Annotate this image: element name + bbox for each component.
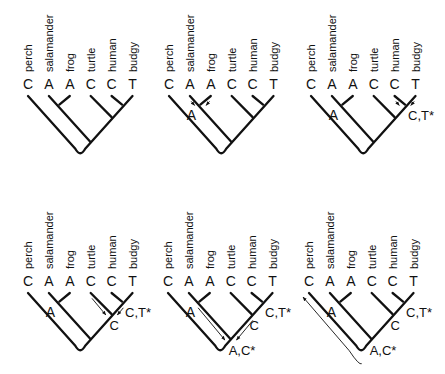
taxon-label-human: human bbox=[387, 235, 399, 269]
tip-state-salamander: A bbox=[327, 76, 337, 92]
tree-panel-4: perchCsalamanderAfrogAturtleChumanCbudgy… bbox=[22, 211, 151, 350]
branch-salamander bbox=[49, 293, 91, 339]
branch-frog bbox=[59, 96, 69, 105]
tip-state-human: C bbox=[247, 273, 257, 289]
tree-panel-3: perchCsalamanderAfrogAturtleChumanCbudgy… bbox=[305, 14, 434, 153]
taxon-label-turtle: turtle bbox=[368, 48, 380, 72]
tip-state-perch: C bbox=[23, 273, 33, 289]
arrow-frog-to-salamander-frog bbox=[206, 101, 209, 105]
ancestral-state-salamander-frog: A bbox=[329, 107, 339, 123]
ancestral-state-human-budgy: C,T* bbox=[406, 305, 432, 320]
branch-turtle bbox=[232, 96, 253, 117]
taxon-label-turtle: turtle bbox=[85, 245, 97, 269]
arrow-human-to-human-budgy bbox=[396, 101, 399, 105]
tip-state-salamander: A bbox=[325, 273, 335, 289]
taxon-label-turtle: turtle bbox=[225, 245, 237, 269]
tree-panel-1: perchCsalamanderAfrogAturtleChumanCbudgy… bbox=[22, 14, 139, 153]
branch-salamander bbox=[332, 96, 374, 142]
branch-salamander bbox=[330, 293, 372, 339]
tip-state-turtle: C bbox=[227, 76, 237, 92]
tip-state-human: C bbox=[248, 76, 258, 92]
branch-human bbox=[395, 96, 405, 105]
branch-turtle bbox=[91, 293, 112, 314]
branch-turtle bbox=[372, 293, 393, 314]
tip-state-salamander: A bbox=[44, 273, 54, 289]
tip-state-turtle: C bbox=[369, 76, 379, 92]
tip-state-perch: C bbox=[164, 76, 174, 92]
taxon-label-budgy: budgy bbox=[267, 239, 279, 269]
tip-state-human: C bbox=[107, 76, 117, 92]
taxon-label-frog: frog bbox=[64, 53, 76, 72]
tip-state-frog: A bbox=[206, 76, 216, 92]
taxon-label-budgy: budgy bbox=[408, 239, 420, 269]
branch-frog bbox=[59, 293, 69, 302]
tip-state-turtle: C bbox=[367, 273, 377, 289]
taxon-label-salamander: salamander bbox=[43, 211, 55, 269]
taxon-label-salamander: salamander bbox=[324, 211, 336, 269]
branch-frog bbox=[199, 293, 209, 302]
tip-state-turtle: C bbox=[86, 273, 96, 289]
tip-state-budgy: T bbox=[268, 273, 277, 289]
tip-state-salamander: A bbox=[44, 76, 54, 92]
ancestral-state-salamander-frog: A bbox=[46, 304, 56, 320]
branch-salamander bbox=[190, 96, 232, 142]
tip-state-perch: C bbox=[306, 76, 316, 92]
taxon-label-salamander: salamander bbox=[326, 14, 338, 72]
taxon-label-frog: frog bbox=[64, 250, 76, 269]
taxon-label-salamander: salamander bbox=[43, 14, 55, 72]
ancestral-state-turtle-node: C bbox=[110, 318, 119, 333]
taxon-label-perch: perch bbox=[163, 44, 175, 72]
taxon-label-budgy: budgy bbox=[410, 42, 422, 72]
tip-state-perch: C bbox=[23, 76, 33, 92]
branch-salamander bbox=[49, 96, 91, 142]
tip-state-frog: A bbox=[346, 273, 356, 289]
tree-panel-6: perchCsalamanderAfrogAturtleChumanCbudgy… bbox=[303, 211, 432, 364]
taxon-label-human: human bbox=[246, 235, 258, 269]
taxon-label-perch: perch bbox=[303, 241, 315, 269]
tree-panel-2: perchCsalamanderAfrogAturtleChumanCbudgy… bbox=[163, 14, 280, 153]
taxon-label-salamander: salamander bbox=[183, 211, 195, 269]
ancestral-state-human-budgy: C,T* bbox=[125, 305, 151, 320]
branch-human bbox=[253, 96, 263, 105]
ancestral-state-salamander-frog: A bbox=[187, 107, 197, 123]
ancestral-state-human-budgy: C,T* bbox=[408, 108, 434, 123]
tip-state-frog: A bbox=[65, 273, 75, 289]
branch-human bbox=[252, 293, 262, 302]
taxon-label-turtle: turtle bbox=[85, 48, 97, 72]
ancestral-state-human-budgy: C,T* bbox=[265, 305, 291, 320]
tip-state-budgy: T bbox=[409, 273, 418, 289]
ancestral-state-amphibian-amniote: A,C* bbox=[229, 343, 256, 358]
ancestral-state-salamander-frog: A bbox=[327, 304, 337, 320]
tip-state-frog: A bbox=[205, 273, 215, 289]
tip-state-budgy: T bbox=[411, 76, 420, 92]
taxon-label-budgy: budgy bbox=[127, 239, 139, 269]
tip-state-salamander: A bbox=[184, 273, 194, 289]
taxon-label-frog: frog bbox=[345, 250, 357, 269]
branch-frog bbox=[340, 293, 350, 302]
taxon-label-salamander: salamander bbox=[184, 14, 196, 72]
taxon-label-turtle: turtle bbox=[366, 245, 378, 269]
tip-state-budgy: T bbox=[269, 76, 278, 92]
tip-state-perch: C bbox=[163, 273, 173, 289]
phylogeny-figure: perchCsalamanderAfrogAturtleChumanCbudgy… bbox=[0, 0, 445, 374]
taxon-label-human: human bbox=[389, 38, 401, 72]
tip-state-salamander: A bbox=[185, 76, 195, 92]
branch-human bbox=[393, 293, 403, 302]
taxon-label-human: human bbox=[106, 235, 118, 269]
taxon-label-perch: perch bbox=[162, 241, 174, 269]
ancestral-state-amphibian-amniote: A,C* bbox=[370, 343, 397, 358]
tip-state-frog: A bbox=[348, 76, 358, 92]
branch-turtle bbox=[91, 96, 112, 117]
taxon-label-frog: frog bbox=[204, 250, 216, 269]
branch-root-perch-budgy bbox=[169, 96, 274, 153]
taxon-label-perch: perch bbox=[22, 241, 34, 269]
tip-state-turtle: C bbox=[86, 76, 96, 92]
taxon-label-human: human bbox=[247, 38, 259, 72]
branch-root-perch-budgy bbox=[28, 96, 133, 153]
ancestral-state-turtle-node: C bbox=[391, 318, 400, 333]
tip-state-frog: A bbox=[65, 76, 75, 92]
ancestral-state-turtle-node: C bbox=[250, 318, 259, 333]
taxon-label-budgy: budgy bbox=[127, 42, 139, 72]
tip-state-human: C bbox=[390, 76, 400, 92]
tip-state-budgy: T bbox=[128, 273, 137, 289]
